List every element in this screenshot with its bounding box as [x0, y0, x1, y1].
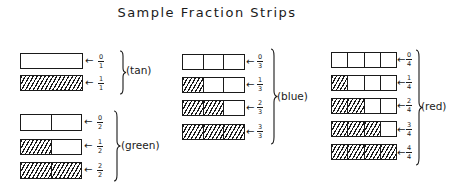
fraction-strip-2-2	[20, 162, 82, 179]
strip-cell-shaded	[348, 145, 364, 159]
strip-cell	[183, 55, 204, 69]
fraction-strip-0-4	[331, 52, 397, 68]
strip-cell-shaded	[332, 99, 348, 113]
strip-cell-shaded	[348, 122, 364, 136]
strip-cell	[21, 115, 52, 130]
arrow-icon: ←	[246, 127, 254, 137]
strip-cell	[381, 53, 396, 67]
fraction-strip-3-3	[182, 124, 245, 140]
strip-cell-shaded	[365, 145, 381, 159]
fraction-strip-2-3	[182, 100, 245, 116]
arrow-icon: ←	[246, 80, 254, 90]
strip-cell	[224, 78, 244, 92]
strip-cell-shaded	[332, 76, 348, 90]
strip-cell-shaded	[348, 99, 364, 113]
fraction-label: 13	[256, 77, 264, 92]
strip-cell-shaded	[21, 140, 52, 154]
arrow-icon: ←	[84, 165, 92, 175]
strip-cell	[204, 78, 225, 92]
arrow-icon: ←	[246, 103, 254, 113]
fraction-strip-4-4	[331, 144, 397, 160]
fraction-label: 02	[96, 115, 104, 130]
diagram-title: Sample Fraction Strips	[112, 5, 302, 20]
fraction-strip-0-2	[20, 114, 82, 131]
color-label-red: (red)	[421, 100, 446, 112]
fraction-label: 04	[405, 52, 413, 67]
fraction-label: 14	[405, 75, 413, 90]
strip-cell-shaded	[21, 163, 52, 178]
strip-cell	[348, 53, 364, 67]
strip-cell	[365, 99, 381, 113]
strip-cell-shaded	[381, 145, 396, 159]
strip-cell-shaded	[183, 125, 204, 139]
strip-cell-shaded	[224, 125, 244, 139]
color-label-tan: (tan)	[126, 64, 151, 76]
color-label-blue: (blue)	[277, 90, 308, 102]
fraction-strip-1-1	[20, 75, 83, 91]
strip-cell-shaded	[183, 101, 204, 115]
strip-cell	[204, 55, 225, 69]
strip-cell-shaded	[21, 76, 82, 90]
arrow-icon: ←	[85, 78, 93, 88]
arrow-icon: ←	[84, 117, 92, 127]
fraction-label: 12	[96, 139, 104, 154]
strip-cell-shaded	[183, 78, 204, 92]
strip-cell-shaded	[204, 125, 225, 139]
fraction-label: 44	[405, 145, 413, 160]
strip-cell	[332, 53, 348, 67]
color-label-green: (green)	[121, 139, 160, 151]
fraction-label: 22	[96, 163, 104, 178]
fraction-label: 11	[97, 76, 105, 91]
fraction-label: 34	[405, 122, 413, 137]
strip-cell-shaded	[52, 163, 82, 178]
fraction-strip-1-4	[331, 75, 397, 91]
strip-cell	[224, 101, 244, 115]
fraction-strip-1-3	[182, 77, 245, 93]
fraction-label: 03	[256, 54, 264, 69]
fraction-strip-0-1	[20, 53, 83, 69]
strip-cell	[365, 53, 381, 67]
fraction-label: 01	[97, 54, 105, 69]
strip-cell-shaded	[332, 145, 348, 159]
arrow-icon: ←	[246, 57, 254, 67]
strip-cell	[21, 54, 82, 68]
strip-cell-shaded	[332, 122, 348, 136]
strip-cell	[381, 99, 396, 113]
fraction-label: 23	[256, 100, 264, 115]
strip-cell	[52, 140, 82, 154]
arrow-icon: ←	[84, 141, 92, 151]
fraction-label: 33	[256, 124, 264, 139]
fraction-strip-1-2	[20, 139, 82, 155]
arrow-icon: ←	[85, 56, 93, 66]
fraction-strip-0-3	[182, 54, 245, 70]
strip-cell	[224, 55, 244, 69]
fraction-strip-3-4	[331, 121, 397, 137]
strip-cell	[365, 76, 381, 90]
strip-cell	[381, 122, 396, 136]
fraction-label: 24	[405, 98, 413, 113]
strip-cell-shaded	[204, 101, 225, 115]
strip-cell	[381, 76, 396, 90]
fraction-strip-2-4	[331, 98, 397, 114]
strip-cell	[348, 76, 364, 90]
strip-cell-shaded	[365, 122, 381, 136]
strip-cell	[52, 115, 82, 130]
